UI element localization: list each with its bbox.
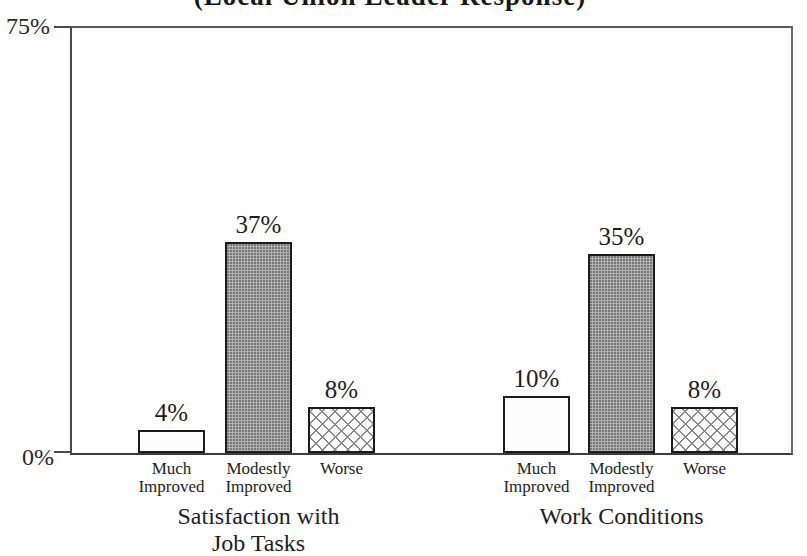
bar-value-label: 8%	[641, 376, 768, 403]
bar-stipple	[225, 242, 292, 453]
bar-crosshatch	[671, 407, 738, 453]
group-label: Work Conditions	[482, 503, 762, 530]
bar-value-label: 8%	[278, 376, 405, 403]
bar-category-label: Worse	[276, 460, 407, 478]
bar-value-label: 35%	[558, 223, 685, 250]
bar-value-label: 10%	[473, 365, 600, 392]
y-axis-tick-0	[54, 451, 70, 453]
bar-value-label: 37%	[195, 211, 322, 238]
y-axis-max-label: 75%	[4, 13, 50, 39]
scanned-bar-chart: (Local Union Leader Response) 75% 0% 4%M…	[0, 0, 807, 556]
bar-plain	[503, 396, 570, 453]
bar-plain	[138, 430, 205, 453]
y-axis-min-label: 0%	[8, 444, 54, 470]
bar-crosshatch	[308, 407, 375, 453]
chart-title: (Local Union Leader Response)	[150, 0, 630, 11]
y-axis-tick-75	[54, 26, 70, 28]
group-label: Satisfaction withJob Tasks	[119, 503, 399, 556]
bar-value-label: 4%	[108, 399, 235, 426]
bar-category-label: Worse	[639, 460, 770, 478]
bar-stipple	[588, 254, 655, 453]
